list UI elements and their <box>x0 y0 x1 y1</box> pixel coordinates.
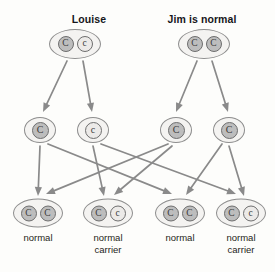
parent-title-1: Louise <box>72 13 106 25</box>
allele-c-recessive: c <box>243 205 259 221</box>
allele-c-dominant: C <box>182 205 198 221</box>
gamete-cell-4: C <box>213 117 245 143</box>
offspring-label-4: normalcarrier <box>226 232 255 256</box>
gamete-cell-1: C <box>24 117 56 143</box>
allele-c-dominant: C <box>91 205 107 221</box>
allele-c-dominant: C <box>206 36 222 52</box>
gamete-cell-2: c <box>77 117 109 143</box>
gamete-2-to-offspring-2 <box>93 146 106 196</box>
parent-cell-1: Cc <box>49 29 101 59</box>
jim-to-gamete-3 <box>176 61 197 112</box>
allele-c-dominant: C <box>163 205 179 221</box>
allele-c-recessive: c <box>85 122 102 139</box>
offspring-label-3: normal <box>165 232 194 244</box>
gamete-cell-3: C <box>160 117 192 143</box>
jim-to-gamete-4 <box>212 61 229 112</box>
offspring-label-1: normal <box>23 232 52 244</box>
allele-c-dominant: C <box>224 205 240 221</box>
offspring-label-line: normal <box>93 232 122 244</box>
gamete-1-to-offspring-3 <box>48 144 172 194</box>
louise-to-gamete-1 <box>43 61 67 112</box>
inheritance-diagram: LouiseCcJim is normalCC CcCC CCnormalCcn… <box>0 0 275 272</box>
allele-c-dominant: C <box>221 122 238 139</box>
allele-c-dominant: C <box>168 122 185 139</box>
allele-c-dominant: C <box>21 205 37 221</box>
gamete-1-to-offspring-1 <box>35 146 42 196</box>
offspring-cell-2: Cc <box>83 199 133 228</box>
parent-title-2: Jim is normal <box>168 13 237 25</box>
offspring-label-line: carrier <box>226 244 255 256</box>
offspring-cell-3: CC <box>155 199 205 228</box>
gamete-4-to-offspring-3 <box>186 144 222 195</box>
allele-c-dominant: C <box>40 205 56 221</box>
gamete-3-to-offspring-2 <box>114 146 172 195</box>
allele-c-dominant: C <box>58 36 74 52</box>
offspring-label-2: normalcarrier <box>93 232 122 256</box>
allele-c-dominant: C <box>32 122 49 139</box>
louise-to-gamete-2 <box>83 61 94 112</box>
allele-c-dominant: C <box>187 36 203 52</box>
gamete-2-to-offspring-4 <box>101 144 236 194</box>
offspring-label-line: normal <box>226 232 255 244</box>
parent-cell-2: CC <box>178 29 230 59</box>
offspring-label-line: normal <box>165 232 194 244</box>
allele-c-recessive: c <box>110 205 126 221</box>
offspring-cell-4: Cc <box>216 199 266 228</box>
offspring-cell-1: CC <box>13 199 63 228</box>
allele-c-recessive: c <box>77 36 93 52</box>
gamete-4-to-offspring-4 <box>229 146 245 196</box>
offspring-label-line: normal <box>23 232 52 244</box>
offspring-label-line: carrier <box>93 244 122 256</box>
gamete-3-to-offspring-1 <box>46 144 168 194</box>
